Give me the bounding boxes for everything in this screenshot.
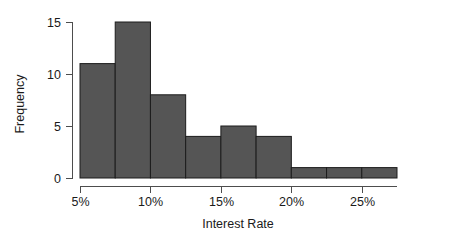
x-axis — [80, 187, 397, 194]
y-axis-tick-label: 10 — [47, 68, 61, 82]
x-axis-tick-labels: 5%10%15%20%25% — [71, 195, 375, 209]
histogram-bar — [115, 22, 150, 178]
bars-group — [80, 22, 397, 178]
x-axis-tick-label: 10% — [138, 195, 163, 209]
x-axis-tick-label: 15% — [209, 195, 234, 209]
x-axis-ticks — [81, 187, 363, 194]
histogram-plot-svg: 051015 5%10%15%20%25% Frequency Interest… — [0, 0, 451, 246]
histogram-bar — [221, 126, 256, 178]
x-axis-tick-label: 20% — [279, 195, 304, 209]
x-axis-title: Interest Rate — [202, 217, 274, 231]
y-axis — [66, 22, 73, 179]
histogram-bar — [291, 168, 326, 178]
x-axis-tick-label: 5% — [71, 195, 89, 209]
y-axis-tick-label: 0 — [54, 172, 61, 186]
histogram-bar — [150, 95, 185, 178]
y-axis-tick-labels: 051015 — [47, 16, 61, 186]
histogram-bar — [327, 168, 362, 178]
histogram-bar — [256, 136, 291, 178]
y-axis-tick-label: 5 — [54, 120, 61, 134]
y-axis-title: Frequency — [13, 74, 27, 134]
x-axis-tick-label: 25% — [350, 195, 375, 209]
y-axis-ticks — [66, 23, 73, 179]
histogram-figure: 051015 5%10%15%20%25% Frequency Interest… — [0, 0, 451, 246]
histogram-bar — [80, 64, 115, 178]
histogram-bar — [186, 136, 221, 178]
y-axis-tick-label: 15 — [47, 16, 61, 30]
histogram-bar — [362, 168, 397, 178]
